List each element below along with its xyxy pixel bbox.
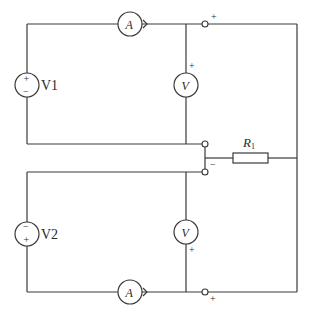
terminal-middle-sign: −: [210, 159, 216, 170]
voltmeter-bottom-plus: +: [189, 244, 195, 255]
ammeter-bottom-label: A: [125, 286, 134, 300]
v2-minus: −: [23, 221, 29, 232]
voltage-source-v1: + − V1: [15, 73, 58, 97]
v1-label: V1: [41, 78, 58, 93]
terminal-top-sign: +: [211, 11, 217, 22]
resistor-label: R1: [242, 135, 255, 151]
voltmeter-top-plus: +: [189, 60, 195, 71]
circuit-diagram: R1 + − + + − V1 − + V2 A A V + V +: [0, 0, 312, 315]
terminal-bottom: [202, 289, 208, 295]
terminal-top: [202, 21, 208, 27]
terminal-middle-lower: [202, 169, 208, 175]
ammeter-top-label: A: [125, 18, 134, 32]
voltage-source-v2: − + V2: [15, 221, 58, 246]
resistor-r1: [233, 153, 268, 163]
terminal-middle-upper: [202, 141, 208, 147]
v2-plus: +: [24, 234, 30, 245]
terminal-bottom-sign: +: [210, 293, 216, 304]
v1-plus: +: [24, 73, 30, 84]
v1-minus: −: [23, 86, 29, 97]
v2-label: V2: [41, 227, 58, 242]
